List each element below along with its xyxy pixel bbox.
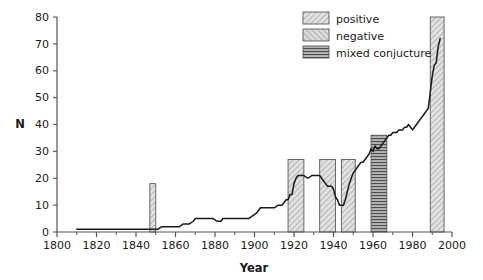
x-tick-label: 1960 [359, 239, 387, 252]
y-axis-ticks: 01020304050607080 [35, 11, 57, 239]
chart-figure: 01020304050607080 1800182018401860188019… [0, 0, 483, 280]
y-tick-label: 10 [35, 199, 49, 212]
x-tick-label: 1840 [122, 239, 150, 252]
y-tick-label: 0 [42, 226, 49, 239]
x-tick-label: 1980 [399, 239, 427, 252]
y-tick-label: 80 [35, 11, 49, 24]
legend-swatch-negative [303, 29, 329, 41]
band-1944-1951 [341, 159, 355, 232]
legend-label-positive: positive [336, 13, 379, 26]
band-1933-1941 [320, 159, 336, 232]
y-tick-label: 40 [35, 118, 49, 131]
y-tick-label: 70 [35, 38, 49, 51]
legend-swatch-mixed-conjucture [303, 46, 329, 58]
x-tick-label: 1860 [162, 239, 190, 252]
x-tick-label: 1880 [201, 239, 229, 252]
y-tick-label: 20 [35, 172, 49, 185]
chart-legend: positivenegativemixed conjucture [303, 12, 432, 60]
y-axis-title: N [15, 117, 25, 131]
x-tick-label: 1920 [280, 239, 308, 252]
x-axis-title: Year [239, 261, 269, 275]
y-tick-label: 50 [35, 91, 49, 104]
legend-label-mixed-conjucture: mixed conjucture [336, 47, 432, 60]
band-1917-1925 [288, 159, 304, 232]
y-tick-label: 30 [35, 145, 49, 158]
band-1847-1850 [150, 184, 156, 232]
x-tick-label: 1940 [320, 239, 348, 252]
y-tick-label: 60 [35, 64, 49, 77]
x-tick-label: 2000 [438, 239, 466, 252]
x-tick-label: 1820 [83, 239, 111, 252]
line-chart-svg: 01020304050607080 1800182018401860188019… [0, 0, 483, 280]
x-tick-label: 1800 [43, 239, 71, 252]
x-tick-label: 1900 [241, 239, 269, 252]
legend-label-negative: negative [336, 30, 384, 43]
x-axis-ticks: 1800182018401860188019001920194019601980… [43, 232, 466, 252]
legend-swatch-positive [303, 12, 329, 24]
